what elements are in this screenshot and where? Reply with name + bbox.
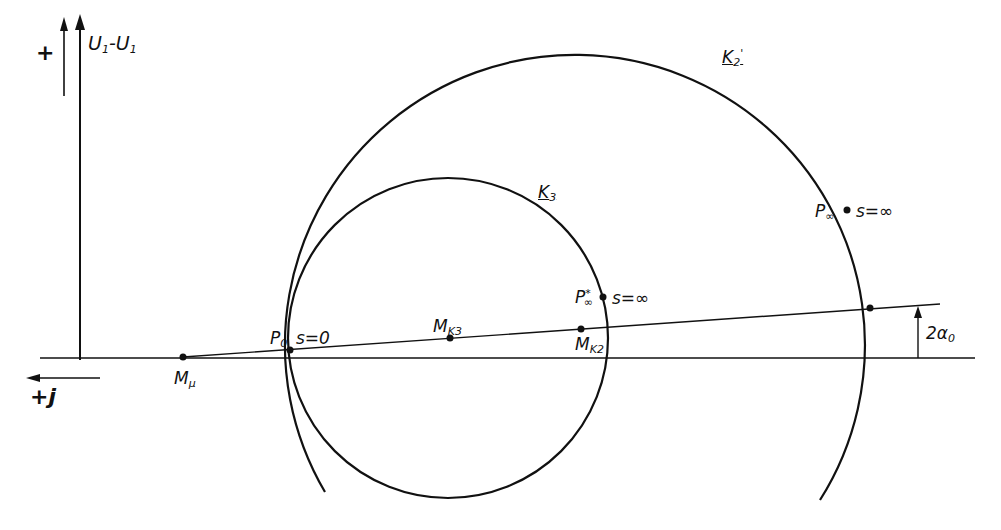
vertical-axis-arrow-icon xyxy=(75,14,85,30)
point-mu xyxy=(180,354,187,361)
s-inf-label-k2: s=∞ xyxy=(856,203,893,220)
point-pinf xyxy=(844,207,851,214)
point-mk2 xyxy=(578,326,585,333)
point-p0 xyxy=(287,347,294,354)
k3-label: K3 xyxy=(538,184,556,203)
circle-diagram xyxy=(0,0,1001,530)
angle-label: 2α0 xyxy=(926,325,955,344)
plus-sign-label: + xyxy=(36,42,54,64)
s-inf-label-k3: s=∞ xyxy=(612,290,649,307)
vertical-axis-label: U1-U1 xyxy=(88,34,137,55)
circle-k2 xyxy=(285,55,865,500)
point-pinf-star xyxy=(600,294,607,301)
plus-j-label: +j xyxy=(30,386,56,408)
angle-arrow-icon xyxy=(914,306,922,318)
s0-label: s=0 xyxy=(296,330,330,347)
point-k2-intersection xyxy=(867,305,874,312)
mu-label: Mμ xyxy=(174,370,196,389)
plus-arrow-icon xyxy=(60,17,68,31)
pinf-label: P∞ xyxy=(815,203,834,222)
mk3-label: MK3 xyxy=(433,318,462,337)
p0-label: P0 xyxy=(270,330,287,349)
k2-label: K2' xyxy=(722,48,743,68)
mk2-label: MK2 xyxy=(575,336,604,355)
plus-j-arrow-icon xyxy=(26,374,40,382)
pinf-star-label: P*∞ xyxy=(575,288,593,308)
